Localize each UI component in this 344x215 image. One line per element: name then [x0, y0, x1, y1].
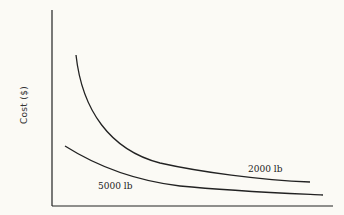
y-axis-label: Cost ($) [19, 86, 29, 124]
series-label-5000-lb: 5000 lb [98, 181, 132, 191]
chart-canvas [0, 0, 344, 215]
curve-2000-lb [76, 55, 310, 182]
series-label-2000-lb: 2000 lb [248, 164, 282, 174]
